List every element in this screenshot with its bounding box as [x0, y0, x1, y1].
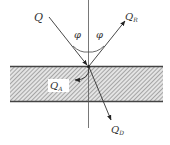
- label-angle-right: φ: [96, 29, 103, 40]
- angle-arc-right: [88, 46, 104, 52]
- label-angle-left: φ: [74, 29, 81, 40]
- label-incident: Q: [34, 11, 43, 24]
- label-transmitted: QD: [111, 124, 124, 136]
- medium-slab: [10, 66, 163, 102]
- reflected-ray: [89, 21, 125, 66]
- label-reflected: QR: [125, 11, 138, 23]
- incidence-point: [87, 65, 90, 68]
- incident-ray: [49, 17, 87, 65]
- diagram-canvas: Q QR φ φ QA QD: [0, 0, 170, 145]
- angle-arc-left: [73, 46, 88, 52]
